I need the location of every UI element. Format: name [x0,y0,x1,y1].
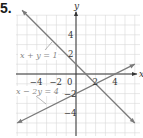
y-tick-label: −2 [64,89,77,99]
x-axis-label: x [139,69,143,79]
y-axis-label: y [73,1,80,11]
x-tick-label: 2 [93,77,98,87]
y-tick-label: 4 [68,30,73,40]
equation-label-1: x + y = 1 [20,51,58,60]
grid [16,15,140,136]
coordinate-plot: xy −4−202442−2−4 x + y = 1x − 2y = 4 [0,0,143,138]
x-tick-label: −4 [30,77,43,87]
x-tick-label: 0 [67,77,72,87]
x-tick-label: 4 [112,77,117,87]
y-tick-label: −4 [64,108,77,118]
equation-label-2: x − 2y = 4 [16,87,59,96]
line-0 [22,10,135,123]
annotations: x + y = 1x − 2y = 4 [14,42,62,104]
y-tick-label: 2 [68,49,73,59]
x-tick-label: −2 [49,77,62,87]
